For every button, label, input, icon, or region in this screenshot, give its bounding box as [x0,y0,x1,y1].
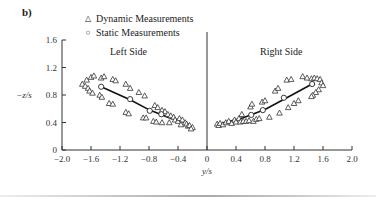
dynamic-point [296,98,302,103]
x-tick-label: −0.4 [170,154,187,164]
dynamic-point [239,111,245,116]
x-tick-label: −2.0 [54,154,71,164]
x-tick-label: 1.2 [288,154,299,164]
y-tick-label: 0.8 [46,90,58,100]
dynamic-point [267,114,273,119]
dynamic-point [300,74,306,79]
legend-label-dynamic: Dynamic Measurements [96,12,193,26]
x-axis-label: y/s [201,166,212,176]
y-tick-label: 0 [53,145,58,155]
x-tick-label: 0.4 [230,154,242,164]
dynamic-point [285,105,291,110]
x-tick-label: 1.6 [317,154,329,164]
static-point [281,95,286,100]
static-point [128,97,133,102]
y-tick-label: 1.2 [46,63,57,73]
y-tick-label: 1.6 [46,35,58,45]
dynamic-point [123,81,129,86]
static-point [249,112,254,117]
panel-label: b) [22,6,32,18]
dynamic-point [288,76,294,81]
left-side-label: Left Side [110,46,147,57]
static-point [99,84,104,89]
dynamic-point [167,120,173,125]
triangle-icon: △ [84,12,92,26]
dynamic-point [275,85,281,90]
x-tick-label: 2.0 [346,154,358,164]
legend: △ Dynamic Measurements ○ Static Measurem… [84,12,193,40]
y-tick-label: 0.4 [46,118,58,128]
static-point [147,108,152,113]
dynamic-point [159,120,165,125]
dynamic-point [136,89,142,94]
x-tick-label: −0.8 [141,154,158,164]
static-point [310,81,315,86]
right-side-label: Right Side [260,46,303,57]
x-tick-label: −1.2 [112,154,128,164]
legend-item-static: ○ Static Measurements [84,26,193,40]
dynamic-point [277,110,283,115]
x-tick-label: 0.8 [259,154,271,164]
y-axis-label: −z/s [16,90,32,100]
legend-label-static: Static Measurements [96,26,180,40]
divider [0,195,376,197]
legend-item-dynamic: △ Dynamic Measurements [84,12,193,26]
circle-icon: ○ [84,26,92,40]
static-point [159,112,164,117]
x-tick-label: 0 [205,154,210,164]
dynamic-point [142,93,148,98]
x-tick-label: −1.6 [83,154,100,164]
dynamic-point [249,101,255,106]
static-point [260,108,265,113]
